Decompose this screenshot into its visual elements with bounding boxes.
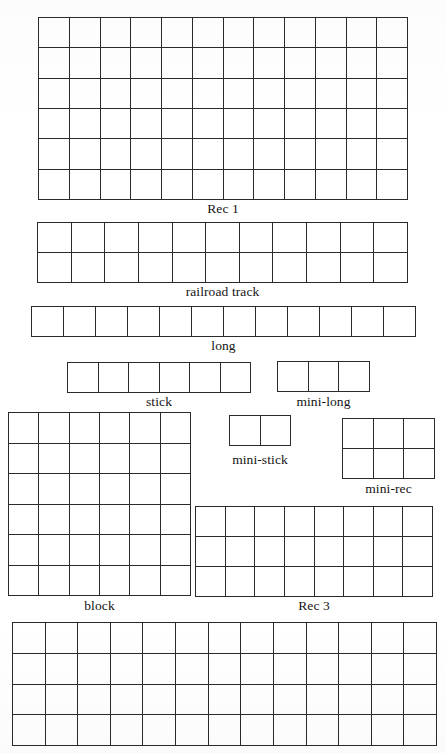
grid-cell	[130, 474, 160, 505]
grid-cell	[161, 444, 191, 475]
grid-cells-stick	[67, 362, 251, 393]
grid-cell	[347, 79, 378, 109]
grid-cell	[70, 18, 101, 48]
grid-cell	[100, 444, 130, 475]
grid-cell	[130, 413, 160, 444]
grid-cell	[403, 537, 433, 567]
grid-cell	[101, 109, 132, 139]
grid-label-railroad-track: railroad track	[37, 284, 408, 299]
grid-cell	[316, 18, 347, 48]
grid-cell	[307, 253, 341, 283]
grid-cell	[224, 48, 255, 78]
grid-cell	[404, 685, 437, 716]
grid-cell	[101, 18, 132, 48]
grid-cell	[39, 566, 69, 597]
grid-cell	[100, 474, 130, 505]
grid-cell	[193, 18, 224, 48]
grid-cell	[254, 48, 285, 78]
grid-cell	[226, 537, 256, 567]
grid-cell	[372, 623, 405, 654]
grid-cell	[9, 535, 39, 566]
grid-cell	[404, 419, 435, 449]
grid-cell	[403, 567, 433, 597]
grid-cell	[176, 715, 209, 746]
grid-cell	[254, 139, 285, 169]
grid-cell	[347, 170, 378, 200]
grid-cell	[209, 685, 242, 716]
grid-cell	[131, 109, 162, 139]
grid-cell	[377, 109, 408, 139]
grid-cell	[70, 48, 101, 78]
grid-cell	[39, 535, 69, 566]
grid-cell	[316, 79, 347, 109]
grid-cell	[162, 170, 193, 200]
grid-cell	[273, 253, 307, 283]
grid-cell	[64, 307, 96, 337]
grid-label-mini-rec: mini-rec	[342, 481, 435, 496]
grid-cell	[39, 18, 70, 48]
grid-cells-rec-3	[195, 506, 433, 597]
grid-cell	[192, 307, 224, 337]
grid-cell	[241, 685, 274, 716]
grid-cell	[13, 623, 46, 654]
grid-cells-mini-stick	[229, 415, 291, 446]
grid-cells-mini-rec	[342, 418, 435, 479]
grid-cell	[9, 413, 39, 444]
grid-cell	[316, 170, 347, 200]
grid-cell	[193, 170, 224, 200]
grid-cell	[377, 48, 408, 78]
grid-cell	[315, 567, 345, 597]
grid-cell	[226, 567, 256, 597]
grid-cell	[161, 566, 191, 597]
grid-cell	[70, 535, 100, 566]
grid-mini-rec	[342, 418, 435, 479]
grid-cell	[70, 109, 101, 139]
grid-cell	[9, 566, 39, 597]
grid-cells-rec-2	[12, 622, 437, 746]
grid-cell	[160, 307, 192, 337]
grid-cell	[209, 654, 242, 685]
grid-cell	[240, 223, 274, 253]
grid-cell	[111, 623, 144, 654]
grid-cell	[9, 474, 39, 505]
grid-cell	[374, 449, 405, 479]
grid-cell	[339, 715, 372, 746]
grid-cell	[32, 307, 64, 337]
grid-mini-long	[277, 361, 370, 392]
grid-cell	[70, 79, 101, 109]
grid-cell	[70, 566, 100, 597]
grid-cell	[377, 139, 408, 169]
grid-cell	[139, 223, 173, 253]
grid-cell	[78, 715, 111, 746]
grid-cell	[315, 537, 345, 567]
grid-cell	[347, 109, 378, 139]
grid-cell	[100, 535, 130, 566]
grid-cell	[403, 507, 433, 537]
grid-rec-3	[195, 506, 433, 597]
grid-cell	[139, 253, 173, 283]
grid-cell	[285, 79, 316, 109]
grid-cell	[39, 474, 69, 505]
grid-cell	[344, 567, 374, 597]
grid-cell	[374, 507, 404, 537]
grid-cell	[384, 307, 416, 337]
grid-cell	[176, 623, 209, 654]
grid-cell	[377, 18, 408, 48]
grid-cell	[9, 444, 39, 475]
grid-cell	[46, 715, 79, 746]
grid-cells-block	[8, 412, 191, 596]
grid-cell	[193, 79, 224, 109]
grid-mini-stick	[229, 415, 291, 446]
grid-cell	[39, 444, 69, 475]
grid-cell	[285, 48, 316, 78]
grid-cell	[307, 685, 340, 716]
grid-cell	[404, 654, 437, 685]
grid-cell	[70, 505, 100, 536]
grid-cell	[130, 566, 160, 597]
grid-cell	[241, 715, 274, 746]
grid-cell	[196, 507, 226, 537]
grid-cells-long	[31, 306, 416, 337]
grid-cell	[377, 170, 408, 200]
grid-cell	[143, 685, 176, 716]
grid-long	[31, 306, 416, 337]
